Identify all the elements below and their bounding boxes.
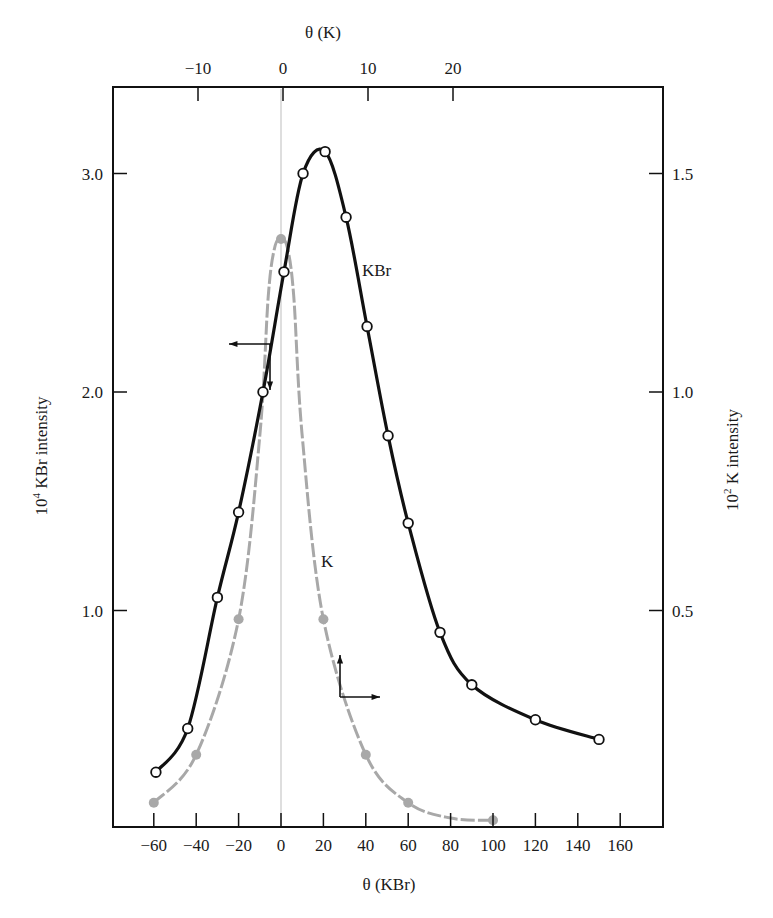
x-axis-top-ticks: −1001020: [185, 59, 462, 101]
x-tick-label: 80: [442, 836, 459, 855]
kbr-data-point: [594, 735, 604, 745]
k-data-point: [234, 614, 244, 624]
x-tick-label: 20: [315, 836, 332, 855]
y-axis-left-title: 104 KBr intensity: [30, 396, 51, 515]
plot-frame: [113, 87, 663, 827]
k-data-point: [403, 798, 413, 808]
kbr-series-curve: [151, 147, 604, 777]
kbr-data-point: [298, 169, 308, 179]
kbr-data-point: [531, 715, 541, 725]
kbr-data-point: [258, 387, 268, 397]
k-data-point: [191, 750, 201, 760]
x-tick-label: 0: [277, 836, 286, 855]
y-tick-label: 1.0: [82, 602, 103, 621]
x-axis-bottom-title: θ (KBr): [363, 875, 416, 894]
x-tick-label: −40: [183, 836, 210, 855]
x-axis-top-title: θ (K): [305, 23, 341, 42]
y-tick-label: 2.0: [82, 383, 103, 402]
y-axis-right-ticks: 0.51.01.5: [649, 165, 693, 621]
x-tick-label: 100: [480, 836, 506, 855]
kbr-data-point: [213, 593, 223, 603]
kbr-data-point: [403, 518, 413, 528]
kbr-data-point: [151, 767, 161, 777]
kbr-data-point: [341, 212, 351, 222]
plot-border: [113, 87, 663, 827]
k-data-point: [276, 234, 286, 244]
x2-tick-label: 0: [279, 59, 288, 78]
x-tick-label: 60: [400, 836, 417, 855]
x-tick-label: 140: [565, 836, 591, 855]
top-axis-arrow-k-head: [337, 655, 343, 663]
x-tick-label: −20: [225, 836, 252, 855]
kbr-data-point: [183, 724, 193, 734]
x2-tick-label: −10: [185, 59, 212, 78]
y-axis-right-title: 102 K intensity: [721, 409, 742, 511]
y2-tick-label: 1.5: [672, 165, 693, 184]
k-data-point: [318, 614, 328, 624]
y-tick-label: 3.0: [82, 165, 103, 184]
x2-tick-label: 20: [445, 59, 462, 78]
kbr-data-point: [234, 507, 244, 517]
k-data-point: [149, 798, 159, 808]
x-tick-label: −60: [141, 836, 168, 855]
y2-tick-label: 0.5: [672, 602, 693, 621]
k-series-label: K: [321, 552, 334, 571]
left-axis-arrow-head: [229, 341, 237, 347]
k-series-curve: [149, 234, 498, 825]
y2-tick-label: 1.0: [672, 383, 693, 402]
kbr-series-label: KBr: [362, 261, 392, 280]
kbr-data-point: [362, 322, 372, 332]
x-tick-label: 120: [523, 836, 549, 855]
kbr-data-point: [383, 431, 393, 441]
kbr-data-point: [467, 680, 477, 690]
kbr-k-intensity-chart: −60−40−20020406080100120140160 −1001020 …: [0, 0, 773, 918]
kbr-data-point: [279, 267, 289, 277]
kbr-data-point: [320, 147, 330, 157]
right-axis-arrow-k-head: [372, 694, 380, 700]
x-tick-label: 160: [607, 836, 633, 855]
k-data-point: [361, 750, 371, 760]
y-axis-left-ticks: 1.02.03.0: [82, 165, 127, 621]
k-line: [154, 239, 493, 820]
x2-tick-label: 10: [360, 59, 377, 78]
x-tick-label: 40: [357, 836, 374, 855]
kbr-data-point: [435, 628, 445, 638]
bottom-axis-arrow-kbr-head: [267, 382, 273, 390]
x-axis-bottom-ticks: −60−40−20020406080100120140160: [141, 813, 633, 855]
